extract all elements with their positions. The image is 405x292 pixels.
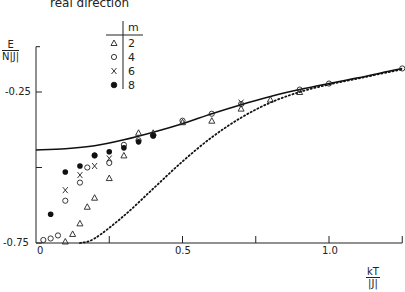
open-circle-marker-icon xyxy=(111,54,116,59)
chart-plot-area xyxy=(0,0,405,292)
filled-circle-marker-icon xyxy=(111,82,117,88)
open-circle-marker-icon xyxy=(41,237,46,242)
filled-circle-marker-icon xyxy=(106,149,112,155)
triangle-marker-icon xyxy=(209,118,215,124)
triangle-marker-icon xyxy=(77,220,83,226)
triangle-marker-icon xyxy=(70,231,76,237)
filled-circle-marker-icon xyxy=(77,163,83,169)
triangle-marker-icon xyxy=(136,130,142,136)
filled-circle-marker-icon xyxy=(48,212,54,218)
triangle-marker-icon xyxy=(106,175,112,181)
x-marker-icon xyxy=(63,187,68,193)
filled-circle-marker-icon xyxy=(136,139,142,145)
filled-circle-marker-icon xyxy=(92,153,98,159)
x-marker-icon xyxy=(112,68,117,74)
triangle-marker-icon xyxy=(121,152,127,158)
open-circle-marker-icon xyxy=(55,233,60,238)
triangle-marker-icon xyxy=(92,195,98,201)
open-circle-marker-icon xyxy=(48,236,53,241)
x-marker-icon xyxy=(77,172,82,178)
triangle-marker-icon xyxy=(84,204,90,210)
triangle-marker-icon xyxy=(111,40,117,46)
filled-circle-marker-icon xyxy=(150,133,156,139)
filled-circle-marker-icon xyxy=(121,145,127,151)
dotted-curve xyxy=(80,69,402,243)
open-circle-marker-icon xyxy=(63,198,68,203)
open-circle-marker-icon xyxy=(77,180,82,185)
open-circle-marker-icon xyxy=(85,165,90,170)
x-marker-icon xyxy=(92,163,97,169)
filled-circle-marker-icon xyxy=(63,169,69,175)
